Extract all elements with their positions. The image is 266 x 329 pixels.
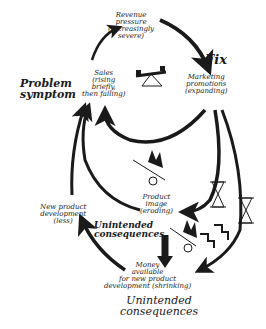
label-line: consequences bbox=[120, 306, 198, 317]
node-line: (eroding) bbox=[140, 208, 173, 215]
snowball-hill-icon-2 bbox=[170, 220, 197, 252]
node-line: (expanding) bbox=[185, 88, 227, 95]
label-unintended-consequences-bottom: Unintended consequences bbox=[120, 295, 198, 317]
node-revenue-pressure: Revenue pressure (increasingly severe) bbox=[108, 12, 154, 40]
node-money-available: Money available for new product developm… bbox=[104, 262, 191, 290]
label-line: symptom bbox=[20, 89, 76, 100]
node-new-product-development: New product development (less) bbox=[40, 204, 86, 225]
node-sales: Sales (rising briefly, then falling) bbox=[82, 70, 125, 98]
node-line: development (shrinking) bbox=[104, 283, 191, 290]
seesaw-icon bbox=[136, 66, 166, 86]
arrow-image-to-sales bbox=[83, 108, 140, 210]
node-line: severe) bbox=[108, 33, 154, 40]
label-line: consequences bbox=[94, 230, 164, 239]
node-marketing-promotions: Marketing promotions (expanding) bbox=[185, 74, 227, 95]
arrow-newproduct-to-sales bbox=[72, 108, 84, 195]
node-line: (less) bbox=[40, 218, 86, 225]
node-product-image: Product image (eroding) bbox=[140, 194, 173, 215]
arrow-revenue-to-marketing bbox=[160, 20, 208, 68]
node-line: then falling) bbox=[82, 91, 125, 98]
stair-step-delay-icon bbox=[200, 225, 228, 248]
label-fix: Fix bbox=[205, 54, 227, 65]
label-unintended-consequences-left: Unintended consequences bbox=[94, 221, 164, 239]
snowball-hill-icon bbox=[133, 150, 165, 185]
label-problem-symptom: Problem symptom bbox=[20, 78, 76, 100]
arrow-marketing-to-sales bbox=[105, 110, 205, 142]
